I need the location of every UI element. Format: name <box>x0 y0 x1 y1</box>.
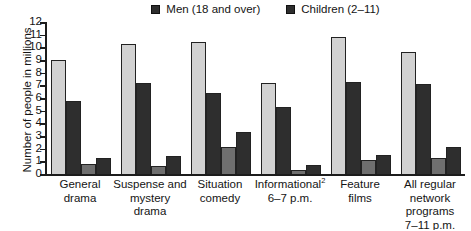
bar <box>221 147 236 174</box>
chart-legend: Men (18 and over) Children (2–11) <box>0 1 471 17</box>
y-tick-label: 8 <box>26 66 42 78</box>
bar <box>206 93 221 174</box>
x-axis-label-line: All regular <box>387 178 471 192</box>
bar <box>151 166 166 174</box>
bar <box>431 158 446 174</box>
y-tick-label: 3 <box>26 129 42 141</box>
plot-area: 0123456789101112 <box>45 22 465 176</box>
bar <box>191 42 206 174</box>
y-tick-label: 11 <box>26 28 42 40</box>
bar <box>166 156 181 174</box>
y-tick-label: 9 <box>26 53 42 65</box>
bar <box>276 107 291 174</box>
y-tick-label: 12 <box>26 15 42 27</box>
bar <box>331 37 346 174</box>
bar-group <box>191 22 254 174</box>
bar <box>121 44 136 174</box>
y-tick-label: 7 <box>26 78 42 90</box>
bar <box>136 83 151 174</box>
y-tick-label: 6 <box>26 91 42 103</box>
bar-group <box>401 22 464 174</box>
bar <box>261 83 276 174</box>
bar <box>416 84 431 174</box>
bar <box>361 160 376 174</box>
y-tick-label: 4 <box>26 116 42 128</box>
legend-item-children: Children (2–11) <box>286 3 379 15</box>
bar <box>346 82 361 174</box>
bar <box>401 52 416 174</box>
y-tick-label: 2 <box>26 142 42 154</box>
bar <box>81 164 96 174</box>
legend-swatch-children <box>286 5 295 14</box>
x-axis-line <box>45 174 465 176</box>
x-axis-label: All regularnetworkprograms7–11 p.m. <box>387 178 471 230</box>
bar-group <box>331 22 394 174</box>
x-axis-labels: GeneraldramaSuspense andmysterydramaSitu… <box>45 178 465 230</box>
legend-label-men: Men (18 and over) <box>166 3 260 15</box>
bar <box>236 132 251 174</box>
bar-group <box>51 22 114 174</box>
x-axis-label-line: 7–11 p.m. <box>387 219 471 231</box>
x-axis-label-line: network <box>387 192 471 206</box>
x-axis-label-line: drama <box>107 205 193 219</box>
x-axis-label-line: programs <box>387 205 471 219</box>
y-tick-label: 1 <box>26 154 42 166</box>
bar-group <box>261 22 324 174</box>
cropped-footnote <box>28 225 328 230</box>
legend-swatch-men <box>151 5 160 14</box>
bar <box>96 158 111 174</box>
legend-label-children: Children (2–11) <box>301 3 379 15</box>
y-tick-label: 5 <box>26 104 42 116</box>
bar <box>446 147 461 174</box>
bar <box>376 155 391 174</box>
bar-chart-figure: Men (18 and over) Children (2–11) Number… <box>0 0 471 230</box>
bar-group <box>121 22 184 174</box>
legend-item-men: Men (18 and over) <box>151 3 260 15</box>
bar <box>66 101 81 174</box>
y-tick-label: 10 <box>26 40 42 52</box>
bar <box>51 60 66 174</box>
bar <box>291 170 306 174</box>
bar <box>306 165 321 174</box>
